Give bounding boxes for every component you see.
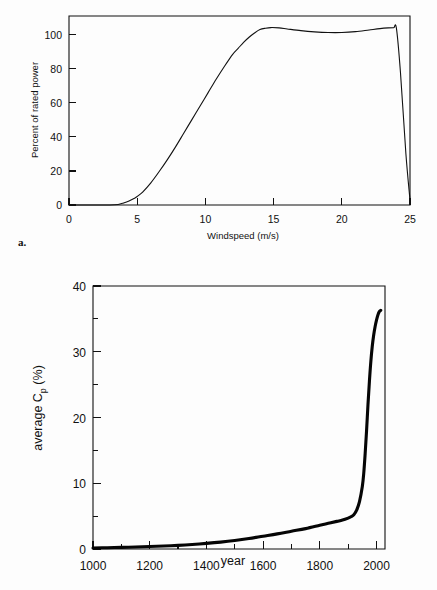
x-tick-label: 1800 (306, 559, 333, 573)
svg-text:average Cp (%): average Cp (%) (31, 365, 48, 451)
y-axis-tick-labels-a: 020406080100 (44, 29, 62, 211)
panel-letter-a: a. (18, 236, 26, 248)
plot-frame-b (93, 286, 385, 549)
y-tick-label: 0 (79, 543, 86, 557)
y-tick-label: 20 (50, 165, 62, 177)
x-tick-label: 20 (336, 213, 348, 225)
x-tick-label: 25 (404, 213, 416, 225)
y-tick-label: 40 (50, 131, 62, 143)
x-tick-label: 15 (268, 213, 280, 225)
power-curve-line (69, 25, 410, 205)
average-cp-curve-line (93, 310, 381, 548)
x-tick-label: 5 (134, 213, 140, 225)
x-tick-label: 1600 (250, 559, 277, 573)
x-tick-label: 2000 (363, 559, 390, 573)
x-tick-label: 0 (66, 213, 72, 225)
y-tick-label: 0 (56, 199, 62, 211)
x-tick-label: 1400 (193, 559, 220, 573)
chart-panel-a: 0510152025 020406080100 Windspeed (m/s) … (0, 0, 437, 262)
chart-b-svg: 100012001400160018002000 010203040 year … (0, 262, 437, 590)
x-tick-label: 1200 (136, 559, 163, 573)
x-tick-label: 1000 (80, 559, 107, 573)
y-axis-title-a: Percent of rated power (29, 62, 40, 158)
figure-page: 0510152025 020406080100 Windspeed (m/s) … (0, 0, 437, 590)
y-tick-label: 100 (44, 29, 62, 41)
y-tick-label: 60 (50, 97, 62, 109)
y-axis-ticks-a (69, 35, 76, 205)
chart-panel-b: 100012001400160018002000 010203040 year … (0, 262, 437, 590)
y-axis-ticks-b (93, 286, 101, 549)
y-tick-label: 80 (50, 63, 62, 75)
y-axis-title-b: average Cp (%) (31, 365, 48, 451)
y-tick-label: 40 (73, 280, 87, 294)
y-tick-label: 10 (73, 477, 87, 491)
x-tick-label: 10 (200, 213, 212, 225)
plot-frame-a (69, 16, 410, 205)
y-axis-tick-labels-b: 010203040 (73, 280, 87, 557)
y-tick-label: 20 (73, 412, 87, 426)
x-axis-title-b: year (221, 554, 245, 568)
chart-a-svg: 0510152025 020406080100 Windspeed (m/s) … (0, 0, 437, 262)
y-tick-label: 30 (73, 346, 87, 360)
x-axis-tick-labels-a: 0510152025 (66, 213, 416, 225)
x-axis-title-a: Windspeed (m/s) (207, 230, 279, 241)
